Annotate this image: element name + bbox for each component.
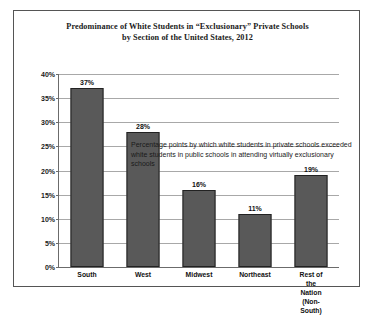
bar-value-label: 16% bbox=[192, 181, 206, 188]
y-axis-tick-label: 20% bbox=[41, 167, 55, 174]
bar-slot: 28% bbox=[115, 74, 171, 267]
y-axis-tick-label: 40% bbox=[41, 71, 55, 78]
y-axis-tick-label: 30% bbox=[41, 119, 55, 126]
bar[interactable] bbox=[295, 175, 328, 267]
bar-slot: 19% bbox=[283, 74, 339, 267]
bar-value-label: 11% bbox=[248, 205, 262, 212]
bar[interactable] bbox=[183, 190, 216, 267]
plot-area: 0%5%10%15%20%25%30%35%40% 37%28%16%11%19… bbox=[58, 74, 339, 268]
y-axis-tick-label: 25% bbox=[41, 143, 55, 150]
bar[interactable] bbox=[239, 214, 272, 267]
bar[interactable] bbox=[71, 88, 104, 267]
bar-value-label: 37% bbox=[80, 79, 94, 86]
bars-layer: 37%28%16%11%19% bbox=[59, 74, 339, 267]
x-axis-category-label: Rest of the Nation (Non-South) bbox=[297, 270, 325, 315]
x-axis-category-label: South bbox=[77, 270, 96, 279]
bar-value-label: 28% bbox=[136, 123, 150, 130]
y-axis-tick-label: 35% bbox=[41, 95, 55, 102]
y-axis-tick-mark bbox=[56, 267, 59, 268]
y-axis-tick-label: 10% bbox=[41, 215, 55, 222]
bar-slot: 11% bbox=[227, 74, 283, 267]
chart-title-line-2: by Section of the United States, 2012 bbox=[22, 32, 353, 43]
bar-slot: 16% bbox=[171, 74, 227, 267]
y-axis-tick-label: 5% bbox=[45, 239, 55, 246]
y-axis-tick-label: 15% bbox=[41, 191, 55, 198]
chart-title-line-1: Predominance of White Students in “Exclu… bbox=[22, 21, 353, 32]
chart-annotation: Percentage points by which white student… bbox=[131, 140, 356, 169]
x-axis-category-label: Northeast bbox=[239, 270, 271, 279]
x-axis-category-label: West bbox=[135, 270, 151, 279]
chart-figure-frame: Predominance of White Students in “Exclu… bbox=[13, 10, 360, 287]
y-axis-tick-label: 0% bbox=[45, 264, 55, 271]
x-axis-category-label: Midwest bbox=[186, 270, 213, 279]
chart-title: Predominance of White Students in “Exclu… bbox=[22, 21, 353, 43]
bar-slot: 37% bbox=[59, 74, 115, 267]
